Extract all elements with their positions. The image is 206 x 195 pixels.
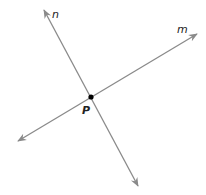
label-p: P: [82, 104, 90, 117]
diagram-canvas: n m P: [0, 0, 206, 195]
label-n: n: [52, 8, 59, 21]
label-m: m: [177, 23, 188, 36]
line-m: [18, 34, 197, 141]
point-p: [88, 94, 93, 99]
